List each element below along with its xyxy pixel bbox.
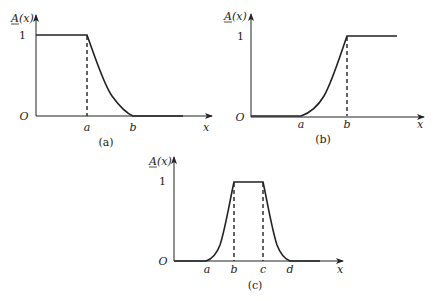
svg-text:A(x): A(x) [223, 10, 247, 23]
panel-c: A(x) 1 O a b c d x (c) [148, 155, 344, 292]
x-tick-c: c [260, 263, 266, 276]
svg-text:A(x): A(x) [10, 12, 34, 25]
x-axis-label: x [337, 263, 344, 276]
y-axis-label-rest: (x) [232, 10, 247, 23]
y-tick-1: 1 [237, 30, 244, 43]
x-axis-label: x [417, 118, 424, 131]
y-axis-label-A: A [148, 155, 157, 168]
origin-label: O [158, 255, 167, 268]
membership-function-figure: A(x) 1 O a b x (a) A(x) 1 O a b x (b) A(… [0, 0, 434, 301]
y-axis-label-A: A [10, 12, 19, 25]
y-axis-label-A: A [223, 10, 232, 23]
y-axis-label-rest: (x) [19, 12, 34, 25]
x-tick-a: a [298, 118, 305, 131]
panel-a: A(x) 1 O a b x (a) [10, 12, 212, 149]
membership-curve [36, 35, 183, 116]
origin-label: O [235, 111, 244, 124]
x-tick-b: b [230, 263, 237, 276]
x-axis-label: x [203, 121, 210, 134]
x-tick-d: d [286, 263, 293, 276]
x-tick-a: a [84, 121, 91, 134]
membership-curve [251, 36, 397, 116]
y-axis-label-rest: (x) [157, 155, 172, 168]
x-tick-a: a [204, 263, 211, 276]
caption-a: (a) [98, 136, 113, 149]
svg-text:A(x): A(x) [148, 155, 172, 168]
x-tick-b: b [343, 118, 350, 131]
y-tick-1: 1 [19, 29, 26, 42]
membership-curve [174, 182, 320, 261]
origin-label: O [19, 110, 28, 123]
caption-b: (b) [315, 133, 331, 146]
caption-c: (c) [248, 279, 263, 292]
y-tick-1: 1 [159, 175, 166, 188]
x-tick-b: b [129, 121, 136, 134]
panel-b: A(x) 1 O a b x (b) [223, 10, 424, 146]
